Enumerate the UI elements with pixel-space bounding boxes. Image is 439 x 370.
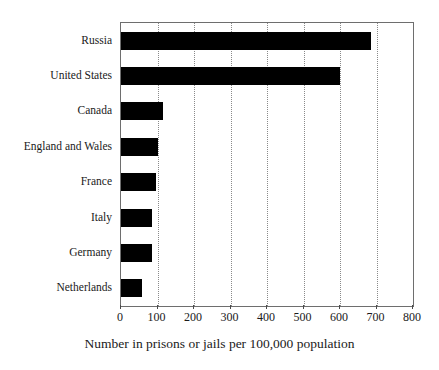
plot-area [120,22,414,307]
bar [121,244,152,262]
x-tick-mark [157,305,158,309]
x-tick-label: 0 [100,310,140,324]
x-tick-label: 100 [137,310,177,324]
category-label: Russia [0,34,112,46]
bar [121,209,152,227]
category-label: Germany [0,246,112,258]
x-tick-label: 800 [392,310,432,324]
x-tick-mark [339,305,340,309]
bar [121,67,340,85]
x-tick-mark [376,305,377,309]
category-label: Netherlands [0,281,112,293]
bar [121,173,156,191]
bar [121,102,163,120]
x-tick-mark [266,305,267,309]
category-label: Italy [0,211,112,223]
x-tick-mark [230,305,231,309]
category-label: France [0,175,112,187]
category-axis: RussiaUnited StatesCanadaEngland and Wal… [0,22,116,305]
bar [121,279,142,297]
x-tick-label: 600 [319,310,359,324]
x-axis: 0100200300400500600700800 [120,305,412,327]
x-axis-title: Number in prisons or jails per 100,000 p… [0,336,439,352]
x-tick-mark [412,305,413,309]
x-tick-mark [193,305,194,309]
category-label: United States [0,69,112,81]
bars-layer [121,23,413,306]
x-tick-mark [120,305,121,309]
x-tick-label: 400 [246,310,286,324]
category-label: Canada [0,104,112,116]
x-tick-label: 200 [173,310,213,324]
bar [121,138,158,156]
x-tick-label: 700 [356,310,396,324]
x-tick-mark [303,305,304,309]
x-tick-label: 500 [283,310,323,324]
category-label: England and Wales [0,140,112,152]
bar [121,32,371,50]
bar-chart-figure: RussiaUnited StatesCanadaEngland and Wal… [0,0,439,370]
x-tick-label: 300 [210,310,250,324]
